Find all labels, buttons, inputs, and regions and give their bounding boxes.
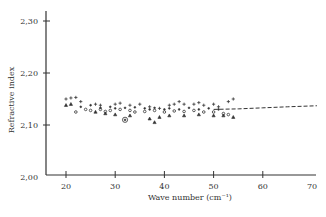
- data-point: [208, 107, 210, 109]
- data-point: [124, 107, 126, 109]
- x-tick-label: 20: [61, 182, 71, 191]
- data-point: [144, 107, 146, 109]
- data-point: [158, 116, 161, 119]
- data-point: [134, 111, 137, 114]
- data-point: [128, 114, 131, 117]
- data-point: [198, 109, 200, 111]
- data-point: [212, 111, 215, 114]
- y-tick-label: 2,30: [20, 17, 38, 26]
- data-point: [154, 107, 156, 109]
- x-tick-label: 60: [258, 182, 268, 191]
- data-point: [202, 104, 205, 107]
- data-point: [168, 114, 171, 117]
- data-point: [69, 103, 72, 106]
- series-dashed-line: [214, 106, 317, 110]
- data-point: [143, 110, 146, 113]
- data-point: [188, 107, 190, 109]
- y-axis-label: Refractive index: [7, 66, 16, 133]
- data-point: [74, 96, 77, 99]
- data-point: [153, 121, 156, 124]
- data-point: [84, 108, 87, 111]
- data-point: [64, 97, 67, 100]
- data-point: [148, 117, 151, 120]
- data-point: [148, 105, 151, 108]
- data-point: [183, 110, 186, 113]
- data-point: [197, 113, 200, 116]
- data-point: [114, 103, 117, 106]
- data-point: [197, 101, 200, 104]
- data-point: [178, 100, 181, 103]
- data-point: [173, 110, 176, 113]
- x-axis-ticks: 203040506070: [61, 171, 317, 191]
- y-tick-label: 2,10: [20, 121, 38, 130]
- data-point: [217, 105, 220, 108]
- data-point: [80, 106, 82, 108]
- trend-line: [214, 106, 317, 110]
- data-point: [168, 104, 171, 107]
- y-tick-label: 2,00: [20, 173, 38, 182]
- data-point: [182, 103, 185, 106]
- data-point: [178, 109, 180, 111]
- x-axis-label: Wave number (cm⁻¹): [148, 193, 232, 202]
- series-circled-dot: [122, 117, 127, 122]
- data-point: [75, 111, 78, 114]
- data-point: [193, 109, 196, 112]
- data-point: [138, 103, 141, 106]
- data-point: [89, 109, 92, 112]
- data-point: [227, 113, 230, 116]
- data-point: [114, 113, 117, 116]
- data-point: [99, 104, 102, 107]
- data-point: [122, 117, 127, 122]
- data-point: [114, 107, 116, 109]
- data-point: [182, 114, 185, 117]
- data-point: [232, 116, 235, 119]
- data-point: [79, 100, 82, 103]
- data-series: [64, 96, 317, 124]
- data-point: [232, 97, 235, 100]
- data-point: [109, 109, 112, 112]
- y-tick-label: 2,20: [20, 69, 38, 78]
- data-point: [192, 103, 195, 106]
- data-point: [128, 104, 131, 107]
- data-point: [212, 103, 215, 106]
- data-point: [119, 102, 122, 105]
- data-point: [69, 96, 72, 99]
- x-tick-label: 40: [159, 182, 169, 191]
- data-point: [129, 109, 132, 112]
- data-point: [149, 109, 151, 111]
- data-point: [64, 104, 67, 107]
- data-point: [94, 103, 97, 106]
- x-tick-label: 50: [209, 182, 219, 191]
- x-tick-label: 30: [110, 182, 120, 191]
- refractive-index-chart: 2,002,102,202,30 203040506070 Wave numbe…: [0, 0, 326, 217]
- data-point: [100, 107, 102, 109]
- data-point: [153, 109, 156, 112]
- data-point: [119, 108, 122, 111]
- data-point: [227, 100, 230, 103]
- data-point: [90, 104, 92, 106]
- data-point: [202, 111, 205, 114]
- x-tick-label: 70: [307, 182, 317, 191]
- series-circle: [75, 108, 230, 116]
- data-point: [109, 106, 111, 108]
- data-point: [218, 109, 220, 111]
- data-point: [164, 109, 166, 111]
- plot-area: 2,002,102,202,30 203040506070: [20, 11, 317, 191]
- data-point: [163, 111, 166, 114]
- data-point: [173, 103, 176, 106]
- data-point: [94, 110, 97, 113]
- data-point: [158, 107, 161, 110]
- data-point: [212, 114, 215, 117]
- data-point: [134, 106, 136, 108]
- data-point: [168, 107, 170, 109]
